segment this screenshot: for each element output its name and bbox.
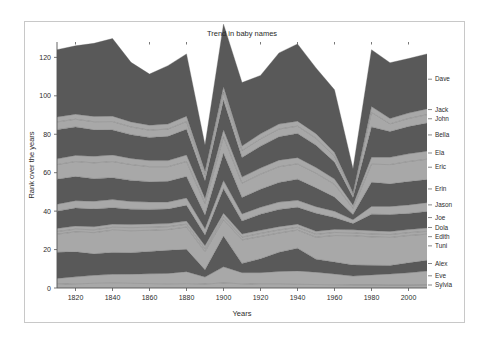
y-tick-label: 60 [43, 169, 51, 176]
legend-label-erin[interactable]: Erin [435, 185, 447, 192]
x-tick-label: 1980 [364, 294, 380, 301]
y-tick-label: 80 [43, 131, 51, 138]
x-tick-label: 1840 [105, 294, 121, 301]
legend-label-jason[interactable]: Jason [435, 201, 452, 208]
legend-label-alex[interactable]: Alex [435, 260, 448, 267]
chart-title: Trend in baby names [207, 29, 277, 38]
x-axis-ticks: 1820184018601880190019201940196019802000 [68, 288, 417, 301]
legend-label-dave[interactable]: Dave [435, 75, 450, 82]
x-tick-label: 1860 [142, 294, 158, 301]
legend-label-joe[interactable]: Joe [435, 214, 446, 221]
legend-label-edith[interactable]: Edith [435, 233, 450, 240]
x-tick-label: 1880 [179, 294, 195, 301]
y-axis-ticks: 020406080100120 [39, 54, 57, 292]
legend-label-dola[interactable]: Dola [435, 224, 449, 231]
legend-label-jack[interactable]: Jack [435, 106, 449, 113]
x-tick-label: 1960 [327, 294, 343, 301]
x-tick-label: 1920 [253, 294, 269, 301]
chart-page: 1820184018601880190019201940196019802000… [0, 0, 489, 344]
top-axis-ticks [76, 42, 409, 45]
y-tick-label: 120 [39, 54, 51, 61]
x-tick-label: 1900 [216, 294, 232, 301]
legend-label-eve[interactable]: Eve [435, 272, 446, 279]
x-axis-title: Years [233, 309, 252, 318]
legend-label-ela[interactable]: Ela [435, 149, 445, 156]
y-axis-title: Rank over the years [27, 131, 36, 198]
legend-label-bella[interactable]: Bella [435, 131, 450, 138]
x-tick-label: 1940 [290, 294, 306, 301]
series-legend: DaveJackJohnBellaElaEricErinJasonJoeDola… [428, 75, 452, 289]
legend-label-tuni[interactable]: Tuni [435, 242, 447, 249]
area-bands-group [57, 24, 427, 288]
x-tick-label: 1820 [68, 294, 84, 301]
legend-label-eric[interactable]: Eric [435, 163, 447, 170]
y-tick-label: 0 [47, 285, 51, 292]
y-tick-label: 100 [39, 92, 51, 99]
y-tick-label: 40 [43, 208, 51, 215]
y-tick-label: 20 [43, 246, 51, 253]
legend-label-sylvia[interactable]: Sylvia [435, 281, 452, 289]
stacked-area-chart: 1820184018601880190019201940196019802000… [0, 0, 489, 344]
x-tick-label: 2000 [401, 294, 417, 301]
legend-label-john[interactable]: John [435, 115, 449, 122]
